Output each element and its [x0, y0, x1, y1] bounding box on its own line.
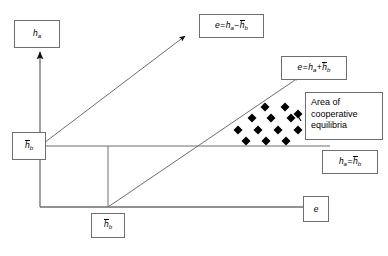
- line-e-equals-ha-minus-hb: [40, 36, 185, 146]
- marker-diamond: [248, 114, 257, 123]
- x-axis-label-text: e: [314, 204, 319, 214]
- x-tick-label-box-hb: hb: [91, 213, 125, 238]
- label-box-area-of-cooperative-equilibria: Area of cooperative equilibria: [305, 92, 383, 140]
- marker-diamond: [282, 137, 291, 146]
- marker-diamond: [234, 126, 243, 135]
- label-text-ha-equals-hb: ha=hb: [339, 156, 361, 169]
- area-box-line-3: equilibria: [311, 120, 377, 132]
- area-box-line-1: Area of: [311, 97, 377, 109]
- label-text-e-equals-ha-plus-hb: e=ha+hb: [298, 62, 331, 75]
- y-tick-label-box-hb: hb: [12, 132, 46, 160]
- y-axis-label-box: ha: [14, 20, 60, 48]
- label-box-ha-equals-hb: ha=hb: [322, 150, 378, 174]
- area-box-line-2: cooperative: [311, 109, 377, 121]
- line-e-equals-ha-plus-hb: [108, 78, 298, 207]
- marker-diamond: [262, 137, 271, 146]
- marker-diamond: [294, 126, 303, 135]
- label-box-e-equals-ha-minus-hb: e=ha−hb: [199, 14, 264, 38]
- marker-diamond: [242, 137, 251, 146]
- x-axis-label-box: e: [303, 196, 329, 222]
- y-tick-label-text: hb: [25, 140, 33, 153]
- marker-diamond: [261, 103, 270, 112]
- marker-diamond: [294, 110, 303, 119]
- marker-diamond: [287, 114, 296, 123]
- marker-diamond: [254, 126, 263, 135]
- y-axis-label-text: ha: [33, 28, 41, 41]
- marker-group-cooperative-equilibria: [234, 103, 303, 146]
- label-text-e-equals-ha-minus-hb: e=ha−hb: [215, 20, 248, 33]
- x-tick-label-text: hb: [104, 219, 112, 232]
- marker-diamond: [274, 126, 283, 135]
- marker-diamond: [267, 114, 276, 123]
- diagram-canvas: ha e hb hb e=ha−hb e=ha+hb ha=hb: [0, 0, 388, 256]
- marker-diamond: [281, 103, 290, 112]
- label-box-e-equals-ha-plus-hb: e=ha+hb: [281, 56, 347, 80]
